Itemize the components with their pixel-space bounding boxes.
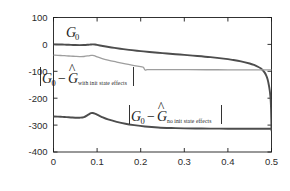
annotation-no-init-right-subscript: no init state effects [167, 118, 211, 124]
y-tick-label: 100 [32, 12, 48, 23]
y-tick-label: 0 [42, 39, 47, 50]
annotation-no-init-left-subscript: 0 [141, 116, 145, 126]
annotation-with-init-right-subscript: with init state effects [78, 80, 127, 86]
y-tick-label: -200 [28, 93, 47, 104]
annotation-with-init-minus: − [57, 71, 66, 86]
annotation-g0-subscript: 0 [75, 32, 79, 42]
x-tick-label: 0.1 [90, 156, 103, 167]
x-tick-label: 0.5 [265, 156, 278, 167]
y-tick-label: -400 [28, 146, 47, 157]
annotation-no-init-minus: − [146, 109, 155, 124]
figure-container: 1000-100-200-300-400 00.10.20.30.40.5 G … [0, 0, 290, 191]
x-tick-label: 0.2 [134, 156, 147, 167]
amplitude-vs-frequency-chart: 1000-100-200-300-400 00.10.20.30.40.5 G … [0, 0, 290, 191]
annotation-with-init-left-subscript: 0 [52, 78, 56, 88]
x-tick-label: 0 [51, 156, 56, 167]
x-tick-label: 0.4 [221, 156, 234, 167]
y-tick-label: -300 [28, 120, 47, 131]
x-tick-label: 0.3 [178, 156, 191, 167]
